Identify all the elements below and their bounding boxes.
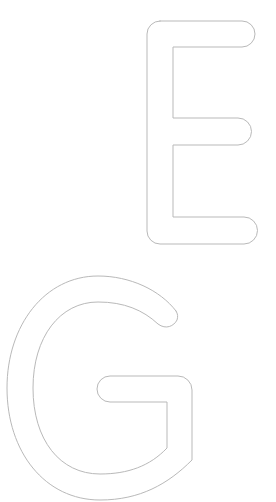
letter-g-shape: [7, 276, 192, 500]
letter-e-shape: [147, 21, 258, 244]
letter-g-outline: [7, 276, 192, 500]
letter-canvas: [0, 0, 276, 502]
letter-e-outline: [147, 21, 258, 244]
